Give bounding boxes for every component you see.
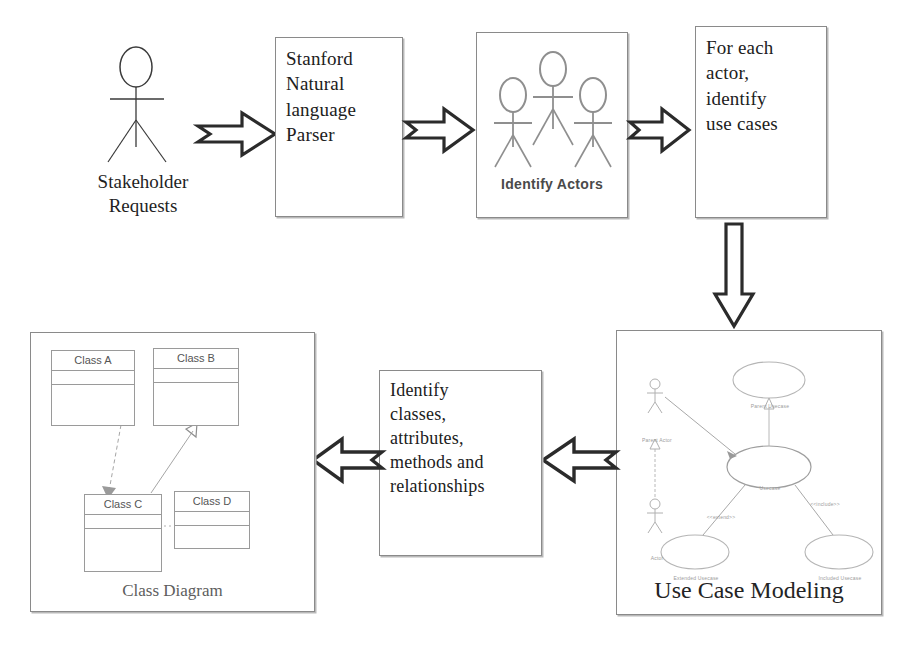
identify-actors-caption: Identify Actors: [477, 176, 627, 192]
class-box-a[interactable]: Class A: [51, 350, 135, 426]
class-name-a: Class A: [52, 351, 134, 371]
use-case-modeling-caption: Use Case Modeling: [617, 577, 881, 604]
class-name-b: Class B: [154, 349, 238, 369]
step-label-use-cases: For each actor, identify use cases: [706, 35, 820, 136]
stakeholder-caption: Stakeholder Requests: [78, 170, 208, 219]
uc-label-parent-usecase: Parent Usecase: [727, 403, 813, 410]
class-attributes-a: [52, 371, 134, 385]
stick-figure-actor-icon: [78, 42, 208, 167]
arrow-actors-to-usecases: [628, 104, 692, 156]
class-attributes-b: [154, 369, 238, 383]
class-box-b[interactable]: Class B: [153, 348, 239, 426]
class-diagram-caption: Class Diagram: [31, 581, 314, 601]
uc-stereotype-extend: <<extend>>: [689, 514, 753, 521]
step-label-identify-classes: Identify classes, attributes, methods an…: [390, 379, 535, 499]
step-box-identify-actors[interactable]: Identify Actors: [476, 32, 628, 218]
step-box-use-cases[interactable]: For each actor, identify use cases: [695, 26, 827, 218]
class-attributes-d: [175, 512, 249, 526]
step-box-class-diagram[interactable]: Class A Class B Class C Class D Class Di…: [30, 332, 315, 612]
class-box-c[interactable]: Class C: [84, 494, 162, 572]
class-attributes-c: [85, 515, 161, 529]
step-box-parser[interactable]: Stanford Natural language Parser: [275, 37, 403, 217]
uc-stereotype-include: <<include>>: [793, 501, 857, 508]
three-actors-icon: [477, 47, 629, 187]
arrow-stakeholder-to-parser: [196, 108, 278, 160]
stakeholder-actor: Stakeholder Requests: [78, 42, 208, 232]
arrow-parser-to-actors: [404, 104, 476, 156]
step-box-identify-classes[interactable]: Identify classes, attributes, methods an…: [379, 370, 542, 556]
arrow-identify-to-class-diagram: [310, 434, 384, 486]
class-name-c: Class C: [85, 495, 161, 515]
class-box-d[interactable]: Class D: [174, 491, 250, 549]
arrow-usecases-to-modeling: [712, 222, 756, 330]
class-name-d: Class D: [175, 492, 249, 512]
arrow-modeling-to-identify: [540, 434, 618, 486]
step-label-parser: Stanford Natural language Parser: [286, 46, 396, 147]
uc-label-usecase: Usecase: [737, 485, 803, 492]
process-flow-diagram: Stakeholder Requests Stanford Natural la…: [0, 0, 898, 672]
uc-label-parent-actor: Parent Actor: [625, 437, 689, 444]
uc-label-actor: Actor: [625, 555, 689, 562]
step-box-use-case-modeling[interactable]: Parent Actor Actor Parent Usecase Usecas…: [616, 330, 882, 615]
